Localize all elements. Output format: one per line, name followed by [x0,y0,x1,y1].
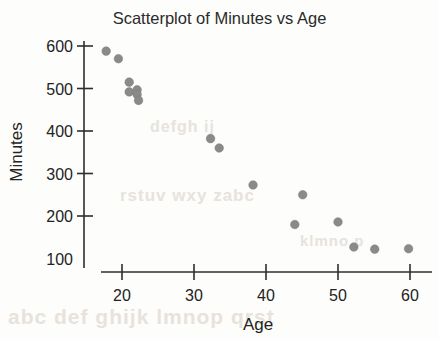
x-axis-title: Age [243,315,273,334]
data-point [125,78,134,87]
data-point [350,243,359,252]
x-tick-label: 60 [401,287,419,304]
x-tick-label: 40 [257,287,275,304]
data-points-layer [102,47,413,254]
x-tick-label: 50 [329,287,347,304]
data-point [370,245,379,254]
x-tick-label: 20 [113,287,131,304]
data-point [206,134,215,143]
data-point [134,96,143,105]
y-tick-label: 600 [46,38,73,55]
y-tick-label: 500 [46,81,73,98]
x-tick-label: 30 [185,287,203,304]
data-point [102,47,111,56]
data-point [291,220,300,229]
y-tick-label: 200 [46,208,73,225]
scatter-plot-canvas: 100200300400500600 2030405060 Age Minute… [0,0,439,341]
data-point [125,88,134,97]
y-tick-label: 100 [46,251,73,268]
data-point [334,218,343,227]
y-tick-label: 300 [46,166,73,183]
data-point [114,54,123,63]
data-point [249,181,258,190]
y-tick-label: 400 [46,123,73,140]
y-axis-title: Minutes [7,122,26,182]
data-point [404,244,413,253]
x-axis-ticks: 2030405060 [113,264,419,304]
data-point [298,190,307,199]
y-axis-ticks: 100200300400500600 [46,38,93,268]
scatterplot-figure: abc def ghijk lmnop qrst rstuv wxy zabc … [0,0,439,341]
data-point [215,144,224,153]
